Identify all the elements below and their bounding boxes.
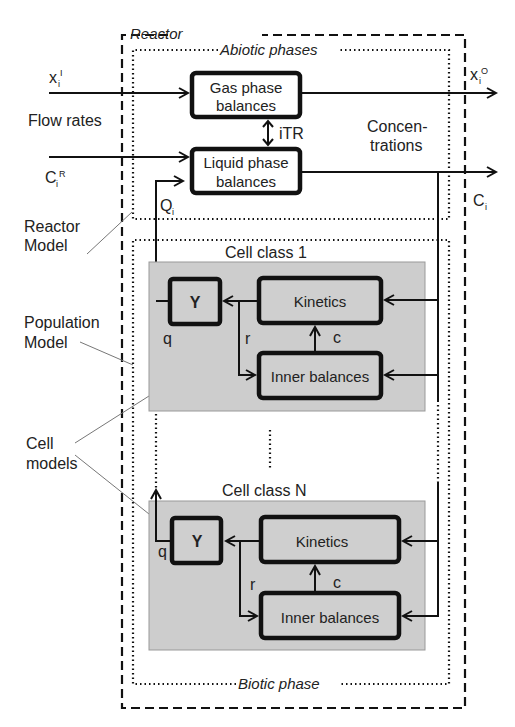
svg-text:x: x [49, 69, 57, 86]
cell-models-label-2: models [26, 455, 78, 472]
svg-text:Kinetics: Kinetics [296, 533, 349, 550]
svg-text:c: c [333, 329, 341, 346]
itr-exchange-arrow: iTR [263, 121, 304, 145]
svg-text:r: r [245, 330, 251, 347]
svg-text:Liquid phase: Liquid phase [203, 154, 288, 171]
svg-text:R: R [59, 169, 66, 179]
svg-text:Inner balances: Inner balances [271, 368, 369, 385]
cell-class-n: Cell class N Y Kinetics Inner balances q… [149, 482, 438, 650]
svg-text:q: q [163, 330, 172, 347]
svg-text:Kinetics: Kinetics [294, 293, 347, 310]
svg-text:q: q [158, 543, 167, 560]
svg-text:C: C [45, 169, 57, 186]
reactor-title: Reactor [130, 25, 184, 42]
svg-text:Inner balances: Inner balances [281, 609, 379, 626]
svg-text:i: i [479, 76, 481, 86]
ci-r-label: C i R [45, 169, 66, 189]
svg-text:balances: balances [216, 97, 276, 114]
svg-text:r: r [250, 576, 256, 593]
svg-text:i: i [58, 79, 60, 89]
concentrations-label-2: trations [370, 137, 422, 154]
xi-out-label: x i O [470, 66, 488, 86]
svg-text:C: C [473, 192, 485, 209]
svg-text:c: c [333, 574, 341, 591]
svg-text:x: x [470, 66, 478, 83]
gas-phase-balances-box: Gas phase balances [192, 73, 300, 117]
cell-class-1-title: Cell class 1 [225, 244, 307, 261]
svg-text:Gas phase: Gas phase [210, 79, 283, 96]
ci-out-label: C i [473, 192, 487, 212]
xi-in-label: x i I [49, 68, 63, 89]
biotic-title: Biotic phase [238, 675, 320, 692]
svg-text:Y: Y [190, 294, 201, 311]
svg-text:I: I [60, 68, 63, 78]
population-model-label-1: Population [24, 314, 100, 331]
svg-text:Y: Y [192, 533, 203, 550]
population-model-label-2: Model [24, 334, 68, 351]
cell-class-n-title: Cell class N [222, 482, 306, 499]
reactor-model-label-1: Reactor [24, 218, 81, 235]
abiotic-title: Abiotic phases [219, 41, 318, 58]
flow-rates-label: Flow rates [28, 112, 102, 129]
svg-text:balances: balances [216, 173, 276, 190]
cell-class-1: Cell class 1 Y Kinetics Inner balances q… [149, 244, 438, 411]
qi-label: Q i [160, 197, 174, 217]
cell-models-label-1: Cell [26, 435, 54, 452]
reactor-model-label-2: Model [24, 237, 68, 254]
liquid-phase-balances-box: Liquid phase balances [192, 149, 300, 193]
reactor-model-diagram: Reactor Abiotic phases Biotic phase Gas … [0, 0, 515, 727]
svg-text:Q: Q [160, 197, 172, 214]
svg-text:i: i [172, 207, 174, 217]
leader-lines [75, 212, 149, 514]
svg-text:iTR: iTR [279, 125, 304, 142]
svg-text:i: i [485, 202, 487, 212]
concentrations-label-1: Concen- [367, 118, 427, 135]
svg-text:i: i [56, 179, 58, 189]
svg-text:O: O [481, 66, 488, 76]
